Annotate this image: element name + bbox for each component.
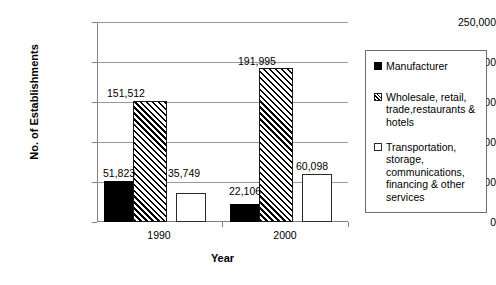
bar-2000-transport [302, 174, 332, 222]
bar-2000-wholesale [259, 68, 293, 222]
x-tick-mark-mid [222, 222, 223, 227]
value-label-2000-wholesale: 191,995 [238, 56, 276, 67]
chart-screenshot: No. of Establishments 250,000 200,000 15… [0, 0, 496, 285]
value-label-1990-transport: 35,749 [168, 168, 200, 179]
bar-1990-transport [176, 193, 206, 222]
y-tick-label-250000: 250,000 [440, 17, 496, 27]
y-tick-mark-0 [92, 222, 97, 223]
legend-item-transport[interactable]: Transportation, storage, communications,… [374, 141, 486, 203]
chart-legend: Manufacturer Wholesale, retail, trade,re… [365, 50, 487, 213]
plot-area [97, 22, 348, 222]
value-label-1990-wholesale: 151,512 [107, 88, 145, 99]
bar-1990-wholesale [133, 101, 167, 222]
value-label-1990-manufacturer: 51,823 [103, 168, 135, 179]
x-tick-label-2000: 2000 [250, 229, 320, 241]
x-tick-label-1990: 1990 [124, 229, 194, 241]
legend-swatch-diagonal-hatch-icon [374, 93, 382, 101]
value-label-2000-transport: 60,098 [296, 161, 328, 172]
legend-label-manufacturer: Manufacturer [386, 60, 448, 72]
y-axis-title: No. of Establishments [28, 22, 40, 182]
value-label-2000-manufacturer: 22,106 [229, 186, 261, 197]
x-axis-title: Year [97, 252, 348, 264]
legend-swatch-white-outline-icon [374, 143, 382, 151]
gridline-200000 [97, 62, 348, 63]
legend-swatch-solid-black-icon [374, 62, 382, 70]
legend-label-wholesale: Wholesale, retail, trade,restaurants & h… [386, 91, 486, 128]
bar-1990-manufacturer [104, 181, 133, 222]
x-tick-mark-end [348, 222, 349, 227]
gridline-250000 [97, 22, 348, 23]
bar-2000-manufacturer [230, 204, 259, 222]
legend-item-wholesale[interactable]: Wholesale, retail, trade,restaurants & h… [374, 91, 486, 128]
legend-item-manufacturer[interactable]: Manufacturer [374, 60, 486, 72]
legend-label-transport: Transportation, storage, communications,… [386, 141, 486, 203]
y-tick-label-0: 0 [440, 217, 496, 227]
